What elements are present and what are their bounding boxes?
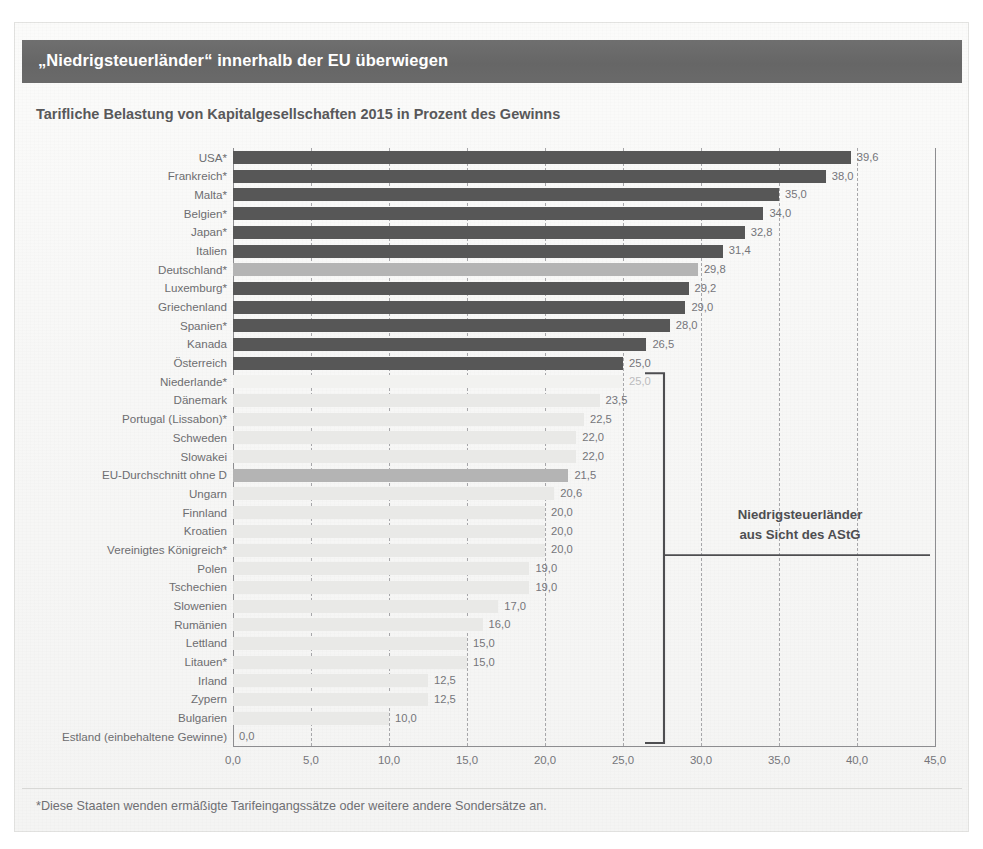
bar-fill [233,562,529,575]
bar [233,712,389,725]
category-label: Deutschland* [5,263,227,276]
category-label: Luxemburg* [5,281,227,294]
bar [233,487,554,500]
category-label: Finnland [5,506,227,519]
page-title: „Niedrigsteuerländer“ innerhalb der EU ü… [38,51,448,70]
category-label: Irland [5,674,227,687]
category-label: Dänemark [5,393,227,406]
footnote-text: *Diese Staaten wenden ermäßigte Tarifein… [36,799,547,813]
category-label: Belgien* [5,207,227,220]
bar-fill [233,450,576,463]
category-label: Frankreich* [5,169,227,182]
bar [233,413,584,426]
category-label: EU-Durchschnitt ohne D [5,468,227,481]
bar-fill [233,600,498,613]
category-label: Niederlande* [5,375,227,388]
category-label: Japan* [5,225,227,238]
value-label: 10,0 [395,712,417,724]
category-label: Bulgarien [5,711,227,724]
bar-fill [233,357,623,370]
bar-fill [233,618,483,631]
bar [233,394,600,407]
bar-fill [233,301,685,314]
value-label: 22,5 [590,413,612,425]
value-label: 29,0 [691,301,713,313]
value-label: 23,5 [606,394,628,406]
gridline-35-0 [779,148,781,746]
gridline-40-0 [857,148,859,746]
bar [233,469,568,482]
value-label: 12,5 [434,674,456,686]
value-label: 35,0 [785,188,807,200]
bar [233,375,623,388]
bar [233,637,467,650]
value-label: 38,0 [832,170,854,182]
value-label: 20,0 [551,506,573,518]
bar [233,170,826,183]
bar [233,188,779,201]
bar-fill [233,263,698,276]
bar [233,245,723,258]
bar-fill [233,674,428,687]
bar-fill [233,581,529,594]
category-label: Österreich [5,356,227,369]
bar-fill [233,170,826,183]
value-label: 28,0 [676,319,698,331]
category-label: Polen [5,562,227,575]
x-axis-tick-label: 40,0 [846,754,868,766]
value-label: 17,0 [504,600,526,612]
bar [233,357,623,370]
value-label: 26,5 [652,338,674,350]
bar-fill [233,245,723,258]
chart-subtitle: Tarifliche Belastung von Kapitalgesellsc… [36,106,560,122]
bar [233,151,851,164]
value-label: 16,0 [489,618,511,630]
header-band: „Niedrigsteuerländer“ innerhalb der EU ü… [22,40,962,83]
bar-fill [233,544,545,557]
bar-fill [233,319,670,332]
bar [233,226,745,239]
bar-fill [233,637,467,650]
annotation-line-1: Niedrigsteuerländer [690,505,910,525]
x-axis-tick-label: 10,0 [378,754,400,766]
category-label: Slowakei [5,450,227,463]
category-label: Rumänien [5,618,227,631]
value-label: 19,0 [535,562,557,574]
bar-fill [233,712,389,725]
x-axis-tick-label: 45,0 [924,754,946,766]
bar-fill [233,375,623,388]
bar [233,525,545,538]
bar [233,319,670,332]
category-label: Schweden [5,431,227,444]
value-label: 15,0 [473,637,495,649]
x-axis-tick-label: 20,0 [534,754,556,766]
bar [233,431,576,444]
bar [233,207,763,220]
bar [233,656,467,669]
bar [233,282,689,295]
value-label: 31,4 [729,244,751,256]
x-axis-line [233,746,936,747]
value-label: 39,6 [857,151,879,163]
category-label: Kanada [5,337,227,350]
bar-fill [233,506,545,519]
bracket-annotation: Niedrigsteuerländer aus Sicht des AStG [690,505,910,546]
value-label: 29,8 [704,263,726,275]
bar [233,506,545,519]
bar-fill [233,413,584,426]
category-label: Slowenien [5,599,227,612]
bar [233,674,428,687]
value-label: 22,0 [582,431,604,443]
bar-fill [233,656,467,669]
category-label: Vereinigtes Königreich* [5,543,227,556]
bar [233,562,529,575]
category-label: Tschechien [5,580,227,593]
x-axis-tick-label: 0,0 [225,754,241,766]
bar-fill [233,431,576,444]
bar-fill [233,338,646,351]
category-label: Malta* [5,188,227,201]
category-label: Lettland [5,636,227,649]
value-label: 25,0 [629,375,651,387]
value-label: 34,0 [769,207,791,219]
x-axis-tick-label: 30,0 [690,754,712,766]
